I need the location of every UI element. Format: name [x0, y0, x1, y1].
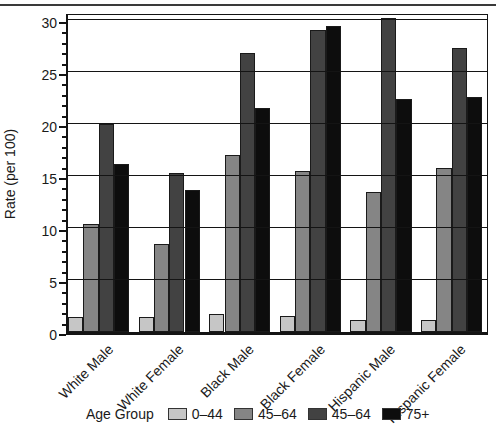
x-category-label-white-female: White Female: [114, 341, 186, 413]
y-minor-tick-6: [62, 272, 66, 274]
y-tick-label-15: 15: [0, 170, 57, 188]
bar-black-female-s0: [280, 316, 295, 332]
legend: Age Group 0–4445–6445–6475+: [86, 406, 441, 422]
gridline-10: [68, 227, 487, 228]
bar-black-female-s2: [310, 30, 325, 332]
legend-item-0: 0–44: [168, 406, 223, 422]
legend-label-3: 75+: [406, 406, 430, 422]
y-major-tick-25: [59, 74, 66, 76]
legend-label-2: 45–64: [332, 406, 371, 422]
y-minor-tick-3: [62, 303, 66, 305]
y-minor-tick-18: [62, 147, 66, 149]
gridline-30: [68, 19, 487, 20]
x-category-label-black-male: Black Male: [197, 341, 257, 401]
bar-black-male-s3: [255, 108, 270, 332]
x-category-label-white-male: White Male: [55, 341, 116, 402]
legend-item-2: 45–64: [308, 406, 371, 422]
bar-black-male-s1: [225, 155, 240, 332]
y-major-tick-0: [59, 334, 66, 336]
y-minor-tick-11: [62, 220, 66, 222]
gridline-5: [68, 279, 487, 280]
y-tick-label-20: 20: [0, 118, 57, 136]
y-minor-tick-8: [62, 251, 66, 253]
y-minor-tick-23: [62, 95, 66, 97]
y-major-tick-20: [59, 126, 66, 128]
legend-swatch-0: [168, 408, 187, 420]
bar-hispanic-male-s0: [350, 320, 365, 332]
bar-white-male-s2: [99, 124, 114, 332]
bar-white-female-s2: [169, 173, 184, 332]
figure: Rate (per 100) 051015202530 White MaleWh…: [0, 0, 496, 436]
legend-swatch-2: [308, 408, 327, 420]
bar-hispanic-female-s0: [421, 320, 436, 332]
y-minor-tick-21: [62, 116, 66, 118]
y-minor-tick-7: [62, 261, 66, 263]
bar-white-male-s0: [68, 317, 83, 332]
y-tick-label-30: 30: [0, 14, 57, 32]
bar-white-female-s3: [185, 190, 200, 332]
legend-item-1: 45–64: [234, 406, 297, 422]
bar-black-female-s1: [295, 171, 310, 332]
y-minor-tick-16: [62, 168, 66, 170]
y-minor-tick-24: [62, 84, 66, 86]
legend-title: Age Group: [86, 406, 154, 422]
bar-hispanic-female-s2: [452, 48, 467, 332]
y-major-tick-5: [59, 282, 66, 284]
y-minor-tick-14: [62, 188, 66, 190]
y-tick-label-10: 10: [0, 222, 57, 240]
bar-white-male-s3: [114, 164, 129, 332]
legend-label-1: 45–64: [258, 406, 297, 422]
y-minor-tick-29: [62, 32, 66, 34]
bar-hispanic-female-s1: [436, 168, 451, 332]
y-major-tick-15: [59, 178, 66, 180]
y-minor-tick-22: [62, 105, 66, 107]
y-minor-tick-19: [62, 136, 66, 138]
y-tick-label-5: 5: [0, 274, 57, 292]
y-minor-tick-27: [62, 53, 66, 55]
y-minor-tick-17: [62, 157, 66, 159]
bar-black-female-s3: [326, 26, 341, 332]
plot-area: [66, 14, 488, 335]
x-category-label-black-female: Black Female: [256, 341, 327, 412]
bar-white-female-s0: [139, 317, 154, 332]
bar-hispanic-male-s3: [396, 99, 411, 332]
page-top-rule: [0, 4, 496, 6]
y-minor-tick-13: [62, 199, 66, 201]
bar-hispanic-female-s3: [467, 97, 482, 332]
bar-white-male-s1: [83, 224, 98, 332]
y-minor-tick-26: [62, 64, 66, 66]
legend-label-0: 0–44: [192, 406, 223, 422]
y-tick-label-0: 0: [0, 326, 57, 344]
y-minor-tick-12: [62, 209, 66, 211]
bar-black-male-s0: [209, 314, 224, 332]
legend-swatch-1: [234, 408, 253, 420]
bar-hispanic-male-s1: [366, 192, 381, 332]
gridline-25: [68, 71, 487, 72]
y-minor-tick-1: [62, 324, 66, 326]
bar-black-male-s2: [240, 53, 255, 332]
y-minor-tick-2: [62, 313, 66, 315]
y-minor-tick-4: [62, 292, 66, 294]
y-tick-label-25: 25: [0, 66, 57, 84]
y-minor-tick-9: [62, 240, 66, 242]
y-major-tick-10: [59, 230, 66, 232]
legend-swatch-3: [382, 408, 401, 420]
bar-white-female-s1: [154, 244, 169, 332]
y-major-tick-30: [59, 22, 66, 24]
x-category-label-hispanic-male: Hispanic Male: [325, 341, 398, 414]
y-minor-tick-28: [62, 43, 66, 45]
gridline-15: [68, 175, 487, 176]
legend-item-3: 75+: [382, 406, 430, 422]
gridline-20: [68, 123, 487, 124]
